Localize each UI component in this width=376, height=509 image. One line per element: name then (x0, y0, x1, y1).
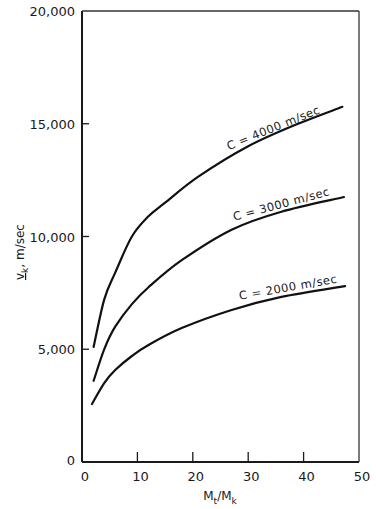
x-tick-label: 0 (81, 469, 89, 484)
y-tick-label: 20,000 (30, 4, 76, 19)
chart: 01020304050 05,00010,00015,00020,000 C =… (0, 0, 376, 509)
series-line-1 (94, 107, 343, 347)
series-label-1: C = 4000 m/sec (225, 103, 322, 153)
curves (92, 107, 345, 404)
series-line-3 (92, 286, 345, 404)
x-axis-title-main: M (203, 489, 213, 503)
y-axis: 05,00010,00015,00020,000 (30, 4, 90, 468)
y-tick-label: 15,000 (30, 117, 76, 132)
x-axis-title-sub2: k (232, 496, 238, 506)
x-tick-label: 50 (354, 469, 371, 484)
x-axis-title: Mt/Mk (203, 489, 237, 506)
y-tick-label: 10,000 (30, 230, 76, 245)
y-axis-title: vk, m/sec (13, 224, 30, 280)
x-axis: 01020304050 (81, 452, 370, 484)
x-tick-label: 40 (298, 469, 315, 484)
series-label-3: C = 2000 m/sec (238, 272, 338, 303)
x-axis-title-sep: /M (217, 489, 231, 503)
y-tick-label: 0 (67, 453, 75, 468)
x-tick-label: 30 (243, 469, 260, 484)
x-tick-label: 20 (188, 469, 205, 484)
y-tick-label: 5,000 (38, 342, 75, 357)
x-tick-label: 10 (132, 469, 149, 484)
y-axis-title-main: v (13, 273, 27, 280)
y-axis-title-unit: , m/sec (13, 224, 27, 268)
